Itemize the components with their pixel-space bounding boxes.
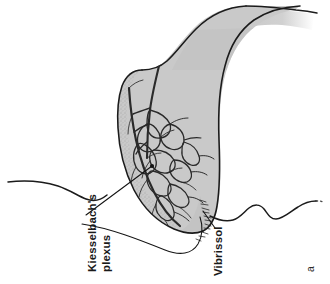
- nasal-septum-illustration: Kiesselbach's plexus Vibrissol a: [0, 0, 330, 284]
- vibrissol-label: Vibrissol: [212, 226, 224, 276]
- kiesselbachs-plexus-label-line2: plexus: [100, 235, 112, 272]
- kiesselbachs-plexus-label-line1: Kiesselbach's: [86, 194, 98, 272]
- panel-letter: a: [304, 266, 316, 272]
- vibrissol-label-line1: Vibrissol: [212, 226, 224, 276]
- nasal-septum-shaded-region: [110, 6, 317, 240]
- facial-profile-contour-right-fade: [316, 201, 323, 202]
- facial-profile-contour-right: [210, 201, 316, 221]
- anatomical-figure-panel: Kiesselbach's plexus Vibrissol a: [0, 0, 330, 284]
- leader-kiesselbach-dot: [150, 164, 154, 168]
